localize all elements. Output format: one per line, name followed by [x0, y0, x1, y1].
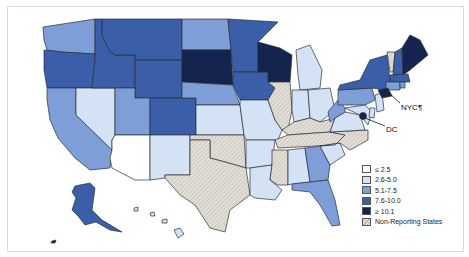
legend-swatch-hatched	[362, 218, 371, 226]
state-de	[369, 108, 375, 118]
state-ri	[400, 82, 405, 88]
legend-label: 5.1-7.5	[375, 187, 397, 194]
state-az	[110, 135, 150, 180]
state-nm	[150, 135, 190, 180]
state-pa	[338, 88, 375, 105]
state-nd	[182, 19, 231, 50]
legend-label: ≥ 10.1	[375, 208, 394, 215]
state-ma	[390, 74, 410, 82]
legend-item: 2.6-5.0	[362, 175, 442, 186]
legend-label: ≤ 2.5	[375, 166, 391, 173]
legend-item: ≤ 2.5	[362, 164, 442, 175]
legend-item: Non-Reporting States	[362, 217, 442, 228]
ak-islands	[51, 240, 56, 243]
state-mt	[102, 19, 182, 60]
state-me	[402, 35, 428, 75]
legend-swatch	[362, 186, 371, 194]
state-wy	[135, 60, 182, 98]
legend-item: ≥ 10.1	[362, 206, 442, 217]
legend-label: 2.6-5.0	[375, 176, 397, 183]
state-co	[150, 98, 196, 135]
state-ny	[338, 55, 390, 90]
state-hi-maui	[162, 219, 167, 223]
legend: ≤ 2.5 2.6-5.0 5.1-7.5 7.6-10.0 ≥ 10.1 No…	[362, 164, 442, 227]
legend-item: 7.6-10.0	[362, 196, 442, 207]
state-ar	[246, 140, 275, 168]
state-or	[44, 50, 95, 88]
state-ak	[72, 183, 122, 232]
legend-label: Non-Reporting States	[375, 218, 442, 225]
state-sd	[182, 50, 233, 85]
state-hi-main	[174, 228, 184, 238]
legend-label: 7.6-10.0	[375, 197, 401, 204]
legend-item: 5.1-7.5	[362, 185, 442, 196]
dc-label: DC	[386, 125, 398, 134]
legend-swatch	[362, 176, 371, 184]
legend-swatch	[362, 197, 371, 205]
nyc-leader-line	[390, 94, 400, 103]
state-in	[292, 90, 310, 122]
legend-swatch	[362, 207, 371, 215]
state-ks	[196, 105, 244, 135]
state-hi-oahu	[150, 212, 155, 216]
state-ms	[270, 150, 288, 185]
state-mi	[296, 45, 322, 90]
state-hi-kauai	[134, 207, 138, 211]
state-fl	[292, 180, 340, 226]
nyc-label: NYC¶	[401, 103, 422, 112]
legend-swatch	[362, 165, 371, 173]
state-wa	[43, 19, 95, 54]
